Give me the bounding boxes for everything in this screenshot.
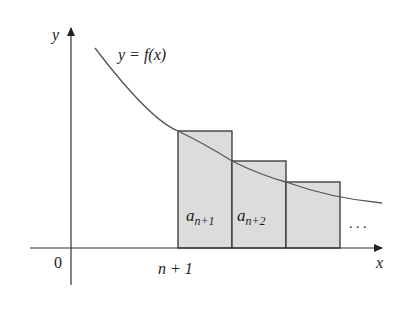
origin-label: 0: [54, 254, 62, 271]
diagram-canvas: y x 0 n + 1 y = f(x) an+1 an+2 . . .: [0, 0, 411, 309]
ellipsis: . . .: [349, 216, 367, 231]
x-axis-label: x: [375, 254, 383, 271]
y-axis-label: y: [50, 26, 60, 44]
bar-2: [232, 161, 286, 248]
integral-test-diagram: y x 0 n + 1 y = f(x) an+1 an+2 . . .: [0, 0, 411, 309]
bar-1: [178, 131, 232, 248]
bar-3: [286, 182, 340, 248]
tick-label-n-plus-1: n + 1: [158, 260, 193, 277]
curve-label: y = f(x): [116, 46, 166, 64]
rectangles: [178, 131, 340, 248]
